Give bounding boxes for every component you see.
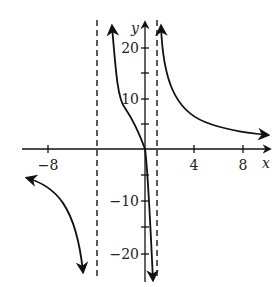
y-axis-label: y <box>130 20 140 36</box>
curve-middle-branch <box>112 26 153 280</box>
curve-left-branch <box>27 178 83 272</box>
y-tick-label: −20 <box>109 246 139 262</box>
curve-right-branch <box>161 26 268 135</box>
y-tick-label: −10 <box>109 193 139 209</box>
function-graph: −8 4 8 20 10 −10 −20 x y <box>0 0 280 287</box>
x-tick-label: −8 <box>38 157 59 173</box>
y-tick-label: 10 <box>121 91 139 107</box>
y-tick-label: 20 <box>121 40 139 56</box>
x-tick-label: 4 <box>190 157 199 173</box>
x-axis-label: x <box>262 155 270 171</box>
x-tick-label: 8 <box>239 157 248 173</box>
